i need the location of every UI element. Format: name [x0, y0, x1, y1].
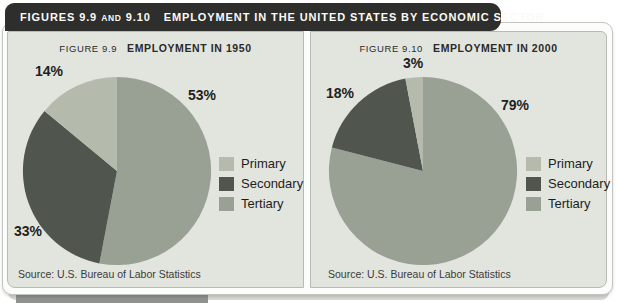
header-figure2-number: 9.10	[126, 11, 151, 23]
legend-swatch-primary	[219, 157, 234, 171]
legend-item-tertiary: Tertiary	[526, 196, 610, 211]
pie-chart-2000	[326, 74, 520, 268]
slice-label-secondary-1950: 33%	[14, 223, 42, 239]
legend-label-tertiary: Tertiary	[241, 196, 284, 211]
header-title: EMPLOYMENT IN THE UNITED STATES BY ECONO…	[164, 11, 545, 23]
figure-number-label: FIGURE 9.10	[359, 43, 423, 54]
legend-swatch-tertiary	[526, 197, 541, 211]
slice-label-tertiary-1950: 53%	[188, 87, 216, 103]
legend-item-tertiary: Tertiary	[219, 196, 303, 211]
legend-label-primary: Primary	[548, 156, 593, 171]
slice-label-primary-1950: 14%	[35, 63, 63, 79]
legend-swatch-secondary	[526, 177, 541, 191]
source-note-2000: Source: U.S. Bureau of Labor Statistics	[328, 268, 511, 280]
legend-item-primary: Primary	[219, 156, 303, 171]
panel-employment-1950: FIGURE 9.9 EMPLOYMENT IN 1950 14% 33% 53…	[7, 31, 304, 288]
header-figures-numbers: FIGURES 9.9	[20, 11, 97, 23]
legend-swatch-secondary	[219, 177, 234, 191]
figure-number-label: FIGURE 9.9	[59, 43, 117, 54]
panel-title-1950: FIGURE 9.9 EMPLOYMENT IN 1950	[8, 38, 303, 56]
pie-chart-1950	[20, 74, 214, 268]
figure-title-label: EMPLOYMENT IN 1950	[127, 42, 252, 54]
slice-label-secondary-2000: 18%	[326, 85, 354, 101]
legend-item-primary: Primary	[526, 156, 610, 171]
figure-header-bar: FIGURES 9.9 AND 9.10 EMPLOYMENT IN THE U…	[5, 3, 501, 31]
panel-employment-2000: FIGURE 9.10 EMPLOYMENT IN 2000 3% 18% 79…	[310, 31, 607, 288]
legend-2000: Primary Secondary Tertiary	[526, 156, 610, 211]
figure-title-label: EMPLOYMENT IN 2000	[433, 42, 558, 54]
figure-composite: FIGURES 9.9 AND 9.10 EMPLOYMENT IN THE U…	[0, 0, 617, 303]
header-and-label: AND	[101, 13, 122, 23]
legend-swatch-tertiary	[219, 197, 234, 211]
legend-1950: Primary Secondary Tertiary	[219, 156, 303, 211]
panel-title-2000: FIGURE 9.10 EMPLOYMENT IN 2000	[311, 38, 606, 56]
slice-label-tertiary-2000: 79%	[501, 97, 529, 113]
source-note-1950: Source: U.S. Bureau of Labor Statistics	[18, 268, 201, 280]
legend-swatch-primary	[526, 157, 541, 171]
slice-label-primary-2000: 3%	[403, 55, 423, 71]
legend-label-tertiary: Tertiary	[548, 196, 591, 211]
legend-label-secondary: Secondary	[548, 176, 610, 191]
page-shadow-dark	[16, 295, 208, 303]
legend-label-primary: Primary	[241, 156, 286, 171]
legend-label-secondary: Secondary	[241, 176, 303, 191]
legend-item-secondary: Secondary	[219, 176, 303, 191]
legend-item-secondary: Secondary	[526, 176, 610, 191]
